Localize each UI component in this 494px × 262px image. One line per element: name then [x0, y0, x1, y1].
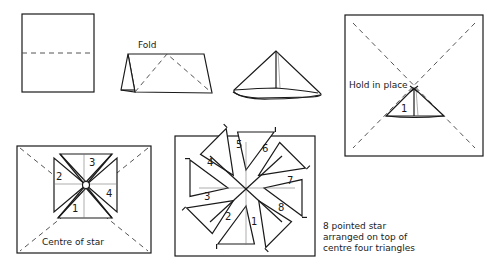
hold-in-place-label: Hold in place: [349, 80, 408, 90]
fold-label: Fold: [138, 40, 157, 50]
caption-line-1: 8 pointed star: [323, 221, 415, 232]
folded-edge: [121, 54, 135, 92]
triangle-number-2: 2: [56, 171, 62, 182]
star-number-8: 8: [278, 202, 284, 213]
star-point-flap: [224, 124, 228, 128]
star-number-6: 6: [262, 143, 268, 154]
step-2-folded-napkin: Fold: [121, 40, 212, 93]
folded-back-panel: [128, 54, 212, 93]
triangle-number-4: 4: [106, 188, 112, 199]
star-point-flap: [306, 166, 310, 170]
star-number-3: 3: [204, 191, 210, 202]
star-number-4: 4: [207, 157, 213, 168]
triangle-1: [386, 88, 444, 116]
caption-line-3: centre four triangles: [323, 243, 415, 254]
triangle-number-3: 3: [89, 157, 95, 168]
star-number-1: 1: [251, 216, 257, 227]
triangle-number: 1: [401, 103, 407, 114]
star-point-flap: [265, 248, 269, 252]
star-number-5: 5: [236, 139, 242, 150]
star-caption: 8 pointed star arranged on top of centre…: [323, 221, 415, 254]
step-5-centre-of-star: 3 2 4 1 Centre of star: [17, 146, 151, 253]
star-point-flap: [182, 207, 186, 211]
step-1-square-napkin: [22, 14, 94, 92]
step-3-cone: [233, 51, 321, 99]
star-point-triangle: [259, 201, 292, 248]
star-number-2: 2: [225, 211, 231, 222]
centre-of-star-label: Centre of star: [42, 237, 104, 247]
star-number-7: 7: [287, 175, 293, 186]
triangle-number-1: 1: [72, 203, 78, 214]
step-6-eight-pointed-star: 5 6 7 8 1 2 3 4: [175, 124, 315, 256]
napkin-folding-diagram: Fold 1 Hold in place: [0, 0, 494, 262]
diagonal-fold-lines: [135, 54, 212, 93]
caption-line-2: arranged on top of: [323, 232, 415, 243]
step-4-hold-in-place: 1 Hold in place: [345, 15, 483, 156]
centre-point: [83, 182, 90, 189]
